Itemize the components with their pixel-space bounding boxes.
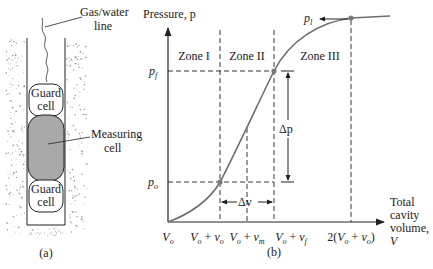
- soil-dot: [16, 144, 17, 145]
- soil-dot: [8, 174, 9, 175]
- delta-v-label: Δv: [238, 195, 252, 209]
- soil-dot: [14, 113, 15, 114]
- soil-dot: [24, 161, 25, 162]
- soil-dot: [53, 228, 54, 229]
- soil-dot: [69, 172, 71, 174]
- soil-dot: [10, 184, 11, 185]
- soil-dot: [16, 215, 17, 216]
- soil-dot: [78, 56, 79, 57]
- soil-dot: [77, 46, 78, 47]
- soil-dot: [75, 129, 77, 131]
- soil-dot: [70, 64, 71, 65]
- soil-dot: [67, 131, 68, 132]
- soil-dot: [39, 234, 40, 235]
- soil-dot: [72, 211, 74, 213]
- soil-dot: [78, 45, 79, 46]
- soil-dot: [11, 160, 12, 161]
- soil-dot: [8, 177, 10, 179]
- soil-dot: [10, 116, 11, 117]
- soil-dot: [72, 197, 74, 199]
- pl-label: pl: [303, 11, 313, 27]
- soil-dot: [75, 225, 76, 226]
- soil-dot: [22, 142, 23, 143]
- delta-p-label: Δp: [279, 122, 293, 136]
- soil-dot: [81, 174, 82, 175]
- soil-dot: [55, 235, 56, 236]
- soil-dot: [15, 121, 16, 122]
- soil-dot: [19, 148, 21, 150]
- soil-dot: [70, 106, 71, 107]
- soil-dot: [68, 118, 69, 119]
- soil-dot: [31, 234, 32, 235]
- soil-dot: [67, 65, 68, 66]
- soil-dot: [12, 59, 13, 60]
- x-axis-label-3: volume,: [390, 221, 429, 235]
- soil-dot: [5, 203, 7, 205]
- soil-dot: [16, 159, 17, 160]
- soil-dot: [10, 100, 12, 102]
- soil-dot: [60, 232, 61, 233]
- soil-dot: [56, 232, 57, 233]
- soil-dot: [67, 170, 68, 171]
- zone-1-label: Zone I: [178, 49, 210, 63]
- soil-dot: [73, 69, 75, 71]
- soil-dot: [50, 234, 51, 235]
- soil-dot: [23, 168, 24, 169]
- soil-dot: [79, 92, 80, 93]
- point-po: [217, 179, 222, 184]
- soil-dot: [23, 85, 25, 87]
- soil-dot: [13, 131, 15, 133]
- soil-dot: [31, 232, 32, 233]
- soil-dot: [76, 195, 77, 196]
- soil-dot: [10, 63, 11, 64]
- soil-dot: [68, 190, 70, 192]
- soil-dot: [16, 177, 18, 179]
- soil-dot: [68, 134, 70, 136]
- soil-dot: [15, 129, 16, 130]
- soil-dot: [78, 64, 79, 65]
- soil-dot: [72, 107, 73, 108]
- soil-dot: [71, 223, 72, 224]
- soil-dot: [12, 84, 13, 85]
- soil-dot: [77, 188, 78, 189]
- soil-dot: [22, 56, 23, 57]
- soil-dot: [6, 59, 8, 61]
- soil-dot: [23, 72, 24, 73]
- soil-dot: [10, 174, 11, 175]
- soil-dot: [16, 65, 18, 67]
- soil-dot: [12, 102, 13, 103]
- soil-dot: [69, 217, 70, 218]
- x-tick-label: Vo + vf: [275, 230, 308, 246]
- soil-dot: [5, 153, 7, 155]
- soil-dot: [79, 193, 81, 195]
- soil-dot: [80, 135, 81, 136]
- soil-dot: [18, 227, 20, 229]
- soil-dot: [54, 235, 55, 236]
- soil-dot: [80, 137, 81, 138]
- soil-dot: [11, 164, 13, 166]
- point-pf: [271, 68, 276, 73]
- soil-dot: [75, 63, 77, 65]
- soil-dot: [16, 101, 17, 102]
- soil-dot: [75, 211, 77, 213]
- soil-dot: [51, 232, 52, 233]
- soil-dot: [13, 173, 15, 175]
- soil-dot: [76, 225, 78, 227]
- soil-dot: [7, 130, 9, 132]
- soil-dot: [72, 195, 73, 196]
- guard-cell-bottom-label-1: Guard: [31, 182, 61, 196]
- soil-dot: [72, 126, 73, 127]
- soil-dot: [11, 155, 12, 156]
- soil-dot: [67, 43, 68, 44]
- soil-dot: [8, 134, 9, 135]
- soil-dot: [5, 72, 7, 74]
- soil-dot: [74, 57, 75, 58]
- soil-dot: [71, 190, 72, 191]
- soil-dot: [8, 75, 9, 76]
- soil-dot: [85, 46, 87, 48]
- soil-dot: [73, 176, 74, 177]
- soil-dot: [79, 105, 80, 106]
- soil-dot: [71, 59, 73, 61]
- pf-label: pf: [148, 64, 159, 80]
- soil-dot: [6, 189, 7, 190]
